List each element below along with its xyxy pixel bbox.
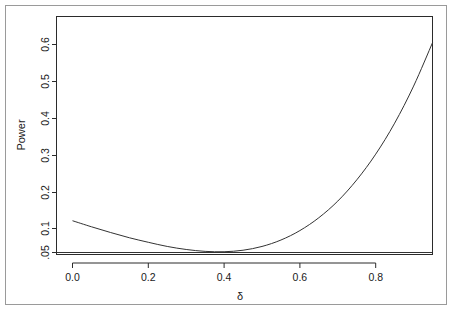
y-ticklabel-6: 0.6 bbox=[39, 37, 51, 52]
y-axis-title: Power bbox=[15, 119, 27, 151]
x-axis-title: δ bbox=[237, 290, 243, 302]
y-axis-ticklabels: .05 0.1 0.2 0.3 0.4 0.5 0.6 bbox=[39, 37, 51, 260]
y-ticklabel-4: 0.4 bbox=[39, 111, 51, 126]
plot-frame bbox=[57, 17, 433, 255]
x-axis-ticks bbox=[73, 263, 376, 268]
y-ticklabel-1: 0.1 bbox=[39, 221, 51, 236]
y-ticklabel-5: 0.5 bbox=[39, 74, 51, 89]
x-ticklabel-4: 0.8 bbox=[368, 271, 383, 283]
x-ticklabel-2: 0.4 bbox=[217, 271, 232, 283]
power-curve-figure: .05 0.1 0.2 0.3 0.4 0.5 0.6 Power 0.0 0.… bbox=[0, 0, 454, 313]
y-axis-ticks bbox=[52, 45, 57, 253]
x-ticklabel-0: 0.0 bbox=[65, 271, 80, 283]
x-ticklabel-1: 0.2 bbox=[141, 271, 156, 283]
chart-page: .05 0.1 0.2 0.3 0.4 0.5 0.6 Power 0.0 0.… bbox=[0, 0, 454, 313]
y-ticklabel-3: 0.3 bbox=[39, 148, 51, 163]
y-ticklabel-0: .05 bbox=[39, 245, 51, 260]
power-curve-line bbox=[73, 43, 433, 252]
y-ticklabel-2: 0.2 bbox=[39, 185, 51, 200]
x-axis-ticklabels: 0.0 0.2 0.4 0.6 0.8 bbox=[65, 271, 383, 283]
x-ticklabel-3: 0.6 bbox=[293, 271, 308, 283]
